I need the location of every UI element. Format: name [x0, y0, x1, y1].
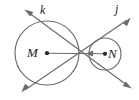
center-dot-m	[45, 51, 49, 55]
label-circle-m: M	[27, 46, 38, 59]
label-line-k: k	[40, 4, 45, 16]
center-connector-segment	[47, 53, 105, 54]
label-line-j: j	[115, 3, 118, 15]
center-dot-n	[103, 52, 107, 56]
label-circle-n: N	[108, 47, 117, 60]
geometry-figure: M N k j	[0, 0, 139, 100]
figure-canvas	[0, 0, 139, 100]
